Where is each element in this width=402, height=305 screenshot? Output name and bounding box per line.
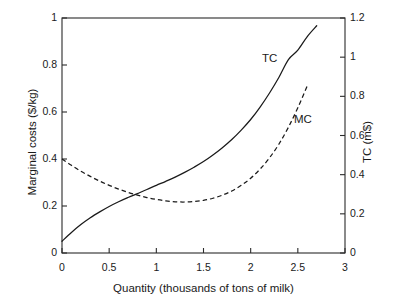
chart-figure: Marginal costs ($/kg) TC (m$) Quantity (… (0, 0, 402, 305)
series-annotation-tc: TC (262, 52, 277, 64)
y-tick-label-right: 1 (350, 50, 386, 62)
x-tick-label: 1.5 (189, 261, 219, 273)
x-tick-label: 0 (47, 261, 77, 273)
x-axis-title: Quantity (thousands of tons of milk) (62, 282, 345, 294)
y-tick-label-left: 0.6 (21, 105, 57, 117)
x-axis-ticks (62, 248, 345, 253)
series-line-mc (62, 86, 307, 202)
x-tick-label: 2 (236, 261, 266, 273)
y-axis-right-ticks (340, 18, 345, 253)
y-tick-label-left: 1 (21, 11, 57, 23)
y-tick-label-right: 0.2 (350, 207, 386, 219)
y-tick-label-right: 0 (350, 246, 386, 258)
y-tick-label-right: 0.4 (350, 168, 386, 180)
x-tick-label: 1 (141, 261, 171, 273)
y-tick-label-right: 0.8 (350, 89, 386, 101)
plot-canvas (0, 0, 402, 305)
y-axis-left-ticks (62, 18, 67, 253)
series-annotation-mc: MC (294, 113, 312, 125)
y-tick-label-left: 0.4 (21, 152, 57, 164)
x-tick-label: 2.5 (283, 261, 313, 273)
y-tick-label-right: 0.6 (350, 129, 386, 141)
x-tick-label: 0.5 (94, 261, 124, 273)
series-line-tc (62, 26, 317, 242)
plot-frame (62, 18, 345, 253)
axes-frame (62, 18, 345, 253)
y-tick-label-left: 0.2 (21, 199, 57, 211)
y-tick-label-left: 0.8 (21, 58, 57, 70)
y-tick-label-left: 0 (21, 246, 57, 258)
y-tick-label-right: 1.2 (350, 11, 386, 23)
x-tick-label: 3 (330, 261, 360, 273)
